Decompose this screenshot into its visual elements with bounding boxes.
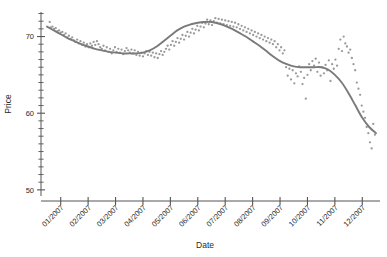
data-point [308,63,310,65]
data-point [331,63,333,65]
x-tick-label: 04/2007 [122,203,148,229]
data-point [234,22,236,24]
data-point [361,104,363,106]
data-point [265,40,267,42]
data-point [176,37,178,39]
data-point [300,71,302,73]
data-point [191,28,193,30]
data-point [357,88,359,90]
data-point [198,29,200,31]
x-tick-label: 10/2007 [287,203,313,229]
data-point [370,147,372,149]
x-axis-title: Date [196,240,214,250]
data-point [117,48,119,50]
data-point [270,38,272,40]
data-point [214,17,216,19]
data-point [277,43,279,45]
data-point [188,35,190,37]
data-point [199,25,201,27]
data-point [206,19,208,21]
data-point [236,26,238,28]
data-point [306,74,308,76]
x-tick-label: 01/2007 [40,203,66,229]
data-point [68,35,70,37]
data-point [328,59,330,61]
data-point [282,52,284,54]
data-point [295,72,297,74]
data-point [139,55,141,57]
data-point [267,37,269,39]
data-point [260,34,262,36]
data-point [259,37,261,39]
data-point [264,35,266,37]
data-point [170,44,172,46]
data-point [181,34,183,36]
data-point [165,48,167,50]
data-point [183,38,185,40]
data-point [155,52,157,54]
x-tick-label: 12/2007 [342,203,368,229]
data-point [61,31,63,33]
data-point [245,31,247,33]
data-point [324,64,326,66]
data-point [175,41,177,43]
y-tick-label: 70 [26,32,34,41]
data-point [89,42,91,44]
data-point [124,50,126,52]
data-point [285,66,287,68]
data-point [296,75,298,77]
data-point [227,20,229,22]
data-point [333,68,335,70]
data-point [147,54,149,56]
data-point [359,94,361,96]
data-point [364,117,366,119]
data-point [315,58,317,60]
data-point [301,83,303,85]
data-point [160,50,162,52]
data-point [356,81,358,83]
data-point [112,49,114,51]
data-point [354,69,356,71]
data-point [252,34,254,36]
data-point [334,58,336,60]
data-point [339,38,341,40]
data-point [142,55,144,57]
data-point [203,26,205,28]
data-point [346,45,348,47]
data-point [341,50,343,52]
data-point [83,42,85,44]
data-point [152,51,154,53]
data-point [273,40,275,42]
data-point [173,45,175,47]
data-point [190,32,192,34]
data-point [166,45,168,47]
x-tick-labels: 01/200702/200703/200704/200705/200706/20… [40,203,367,229]
data-point [255,35,257,37]
data-point [217,18,219,20]
data-point [372,123,374,125]
data-point [221,19,223,21]
data-point [338,48,340,50]
data-point [79,40,81,42]
data-point [91,45,93,47]
data-point [71,36,73,38]
data-point [49,21,51,23]
y-tick-label: 60 [26,109,34,118]
data-point [250,29,252,31]
y-axis-title: Price [3,94,13,114]
data-point [347,51,349,53]
data-point [92,41,94,43]
data-point [51,25,53,27]
data-point [272,43,274,45]
data-point [239,28,241,30]
data-point [106,46,108,48]
x-tick-label: 03/2007 [95,203,121,229]
trend-line [47,22,376,133]
data-point [283,49,285,51]
data-point [293,82,295,84]
data-point [257,32,259,34]
data-point [127,49,129,51]
data-point [290,78,292,80]
data-point [292,69,294,71]
data-point [162,54,164,56]
